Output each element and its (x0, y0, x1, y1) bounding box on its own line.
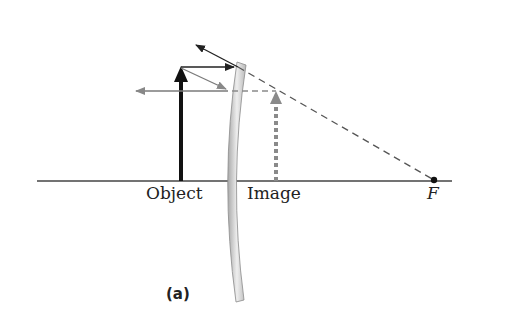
refracted-ray (196, 45, 238, 67)
diverging-lens (228, 62, 246, 302)
focal-point-label: F (427, 183, 439, 203)
object-label: Object (146, 183, 203, 203)
central-ray (181, 68, 226, 89)
extension-to-focal-point (238, 67, 434, 180)
panel-label: (a) (166, 285, 190, 303)
lens-diagram: Object Image F (a) (0, 0, 517, 324)
image-label: Image (247, 183, 301, 203)
image-arrowhead-icon (270, 91, 282, 104)
